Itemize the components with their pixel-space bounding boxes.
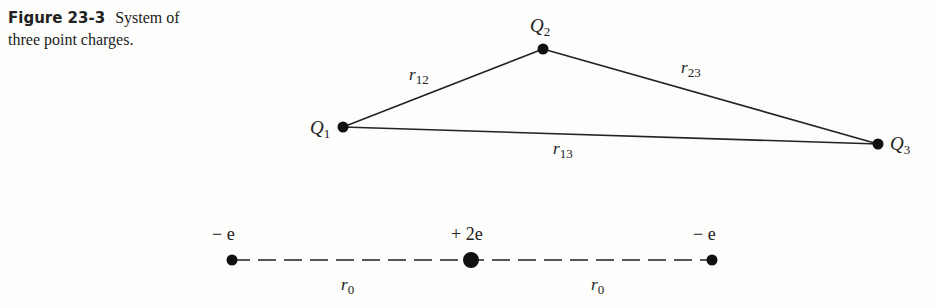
- label-left-charge: − e: [212, 224, 235, 244]
- edge-r13: [343, 127, 878, 144]
- edge-r23: [543, 49, 878, 144]
- charge-right-dot: [707, 255, 718, 266]
- label-center-charge: + 2e: [451, 224, 483, 244]
- charge-q3-dot: [873, 139, 884, 150]
- label-q3: Q3: [890, 133, 910, 157]
- label-r0-right: r0: [591, 275, 604, 297]
- edge-r12: [343, 49, 543, 127]
- label-r13: r13: [553, 139, 573, 161]
- label-r0-left: r0: [341, 275, 354, 297]
- charge-q2-dot: [538, 44, 549, 55]
- charges-diagram: Q1 Q2 Q3 r12 r23 r13 − e + 2e − e r0 r0: [0, 0, 936, 308]
- label-q2: Q2: [530, 15, 550, 39]
- triangle-system: Q1 Q2 Q3 r12 r23 r13: [310, 15, 910, 161]
- label-right-charge: − e: [693, 224, 716, 244]
- label-r23: r23: [681, 58, 701, 80]
- charge-q1-dot: [338, 122, 349, 133]
- label-r12: r12: [409, 65, 429, 87]
- charge-center-dot: [463, 252, 479, 268]
- linear-system: − e + 2e − e r0 r0: [212, 224, 718, 297]
- label-q1: Q1: [310, 117, 330, 141]
- charge-left-dot: [227, 255, 238, 266]
